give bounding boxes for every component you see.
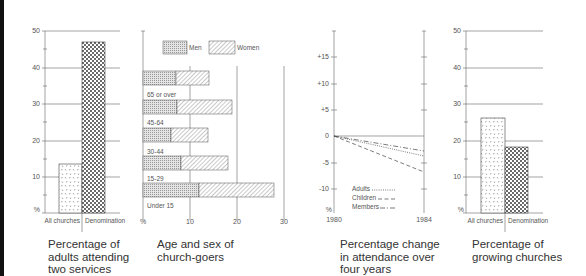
legend-children-label: Children bbox=[352, 194, 377, 201]
bar-all-churches bbox=[481, 118, 505, 213]
caption-attendance-change: Percentage change in attendance over fou… bbox=[340, 238, 440, 276]
ytick-10: 10 bbox=[453, 173, 461, 180]
xtick-20: 20 bbox=[233, 218, 241, 225]
ytick-30: 30 bbox=[453, 100, 461, 107]
bar-denomination bbox=[505, 147, 528, 213]
ytick-percent: % bbox=[458, 206, 464, 213]
bar-45-64 bbox=[143, 100, 232, 114]
ytick-percent: % bbox=[34, 206, 40, 213]
xlabel-denomination: Denomination bbox=[85, 217, 125, 224]
ytick-0: 0 bbox=[325, 132, 329, 139]
legend-adults-label: Adults bbox=[352, 185, 371, 192]
bar-under-15 bbox=[143, 183, 274, 197]
charts-canvas: 50 40 30 20 10 % All churches Denominati… bbox=[0, 0, 586, 276]
ytick-plus10: +10 bbox=[317, 80, 329, 87]
line-members bbox=[334, 136, 424, 151]
line-adults bbox=[334, 136, 424, 156]
chart-age-sex: Men Women 65 or over 45-64 30-44 15-29 U… bbox=[140, 31, 288, 225]
legend: Adults Children Members bbox=[352, 185, 397, 210]
legend-men-label: Men bbox=[189, 44, 202, 51]
ytick-minus10: -10 bbox=[319, 185, 329, 192]
ytick-30: 30 bbox=[32, 100, 40, 107]
legend-women-label: Women bbox=[237, 44, 260, 51]
ytick-percent: % bbox=[326, 206, 332, 213]
xlabel-denomination: Denomination bbox=[508, 217, 548, 224]
xlabel-all-churches: All churches bbox=[45, 217, 81, 224]
xtick-10: 10 bbox=[186, 218, 194, 225]
xtick-1980: 1980 bbox=[326, 216, 342, 223]
ytick-40: 40 bbox=[453, 64, 461, 71]
bar-all-churches bbox=[59, 164, 82, 213]
ticks bbox=[331, 57, 427, 189]
line-children bbox=[334, 136, 424, 172]
caption-adults-two-services: Percentage of adults attending two servi… bbox=[48, 238, 129, 276]
caption-growing-churches: Percentage of growing churches bbox=[472, 238, 562, 263]
xtick-30: 30 bbox=[280, 218, 288, 225]
label-45-64: 45-64 bbox=[147, 119, 164, 126]
legend-men-swatch bbox=[163, 41, 187, 54]
bar-denomination bbox=[82, 42, 105, 213]
xtick-percent: % bbox=[140, 218, 146, 225]
ytick-20: 20 bbox=[453, 137, 461, 144]
legend-women-swatch bbox=[209, 41, 235, 54]
ytick-50: 50 bbox=[32, 27, 40, 34]
chart-growing-churches: 50 40 30 20 10 % All churches Denominati… bbox=[453, 27, 548, 232]
ytick-minus5: -5 bbox=[323, 159, 329, 166]
xlabel-all-churches: All churches bbox=[468, 217, 504, 224]
ytick-plus5: +5 bbox=[321, 106, 329, 113]
label-15-29: 15-29 bbox=[147, 175, 164, 182]
ytick-10: 10 bbox=[32, 173, 40, 180]
bar-65-over bbox=[143, 71, 209, 85]
legend-members-label: Members bbox=[352, 203, 380, 210]
label-30-44: 30-44 bbox=[147, 148, 164, 155]
chart-adults-two-services: 50 40 30 20 10 % All churches Denominati… bbox=[32, 27, 125, 232]
label-under-15: Under 15 bbox=[147, 202, 174, 209]
xtick-1984: 1984 bbox=[416, 216, 432, 223]
ytick-20: 20 bbox=[32, 137, 40, 144]
label-65-over: 65 or over bbox=[147, 91, 177, 98]
caption-age-sex: Age and sex of church-goers bbox=[157, 238, 234, 263]
bar-15-29 bbox=[143, 156, 228, 170]
ytick-plus15: +15 bbox=[317, 53, 329, 60]
bar-30-44 bbox=[143, 128, 208, 142]
chart-attendance-change: +15 +10 +5 0 -5 -10 % 1980 1984 Adults C… bbox=[317, 31, 432, 223]
ytick-40: 40 bbox=[32, 64, 40, 71]
ytick-50: 50 bbox=[453, 27, 461, 34]
